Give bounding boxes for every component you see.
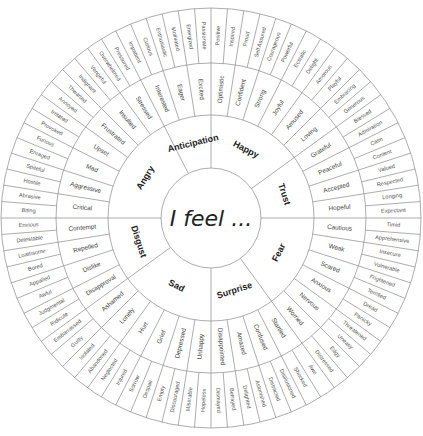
outer-emotion-label: Dismayed (215, 388, 222, 413)
feelings-wheel: PositiveInspiredOptimisticProudSelf Assu… (0, 0, 423, 436)
outer-emotion-label: Hopeless (200, 388, 207, 412)
outer-emotion-label: Envious (19, 221, 39, 228)
center-label: I feel ... (170, 206, 252, 231)
outer-emotion-label: Biting (22, 207, 36, 214)
outer-emotion-label: Passionate (201, 22, 208, 50)
outer-emotion-label: Timid (387, 221, 401, 228)
outer-emotion-label: Expectant (381, 207, 407, 214)
outer-emotion-label: Positive (214, 26, 221, 46)
